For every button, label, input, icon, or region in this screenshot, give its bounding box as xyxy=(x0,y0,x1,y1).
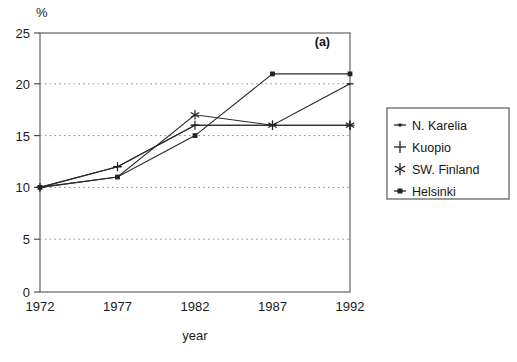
x-tick-label-1992: 1992 xyxy=(336,299,365,314)
marker-helsinki-1982 xyxy=(193,133,198,138)
y-tick-label-0: 0 xyxy=(23,285,30,300)
y-tick-label-25: 25 xyxy=(16,26,30,41)
y-tick-label-15: 15 xyxy=(16,129,30,144)
y-tick-label-5: 5 xyxy=(23,232,30,247)
legend: N. Karelia Kuopio SW. Finland xyxy=(387,108,509,199)
chart-figure: % 25 20 15 10 5 0 xyxy=(0,0,517,362)
dash-dot-marker-dot xyxy=(399,124,402,127)
x-tick-label-1977: 1977 xyxy=(103,299,132,314)
legend-label-sw-finland: SW. Finland xyxy=(412,163,479,177)
y-tick-label-10: 10 xyxy=(16,180,30,195)
x-axis-title: year xyxy=(182,328,208,343)
x-tick-label-1982: 1982 xyxy=(181,299,210,314)
marker-helsinki-1992 xyxy=(348,72,353,77)
y-tick-label-20: 20 xyxy=(16,77,30,92)
chart-svg: % 25 20 15 10 5 0 xyxy=(0,0,517,362)
filled-square-marker-box xyxy=(398,189,403,194)
legend-label-kuopio: Kuopio xyxy=(412,141,451,155)
marker-helsinki-1987 xyxy=(270,72,275,77)
legend-label-n-karelia: N. Karelia xyxy=(412,119,467,133)
x-tick-label-1972: 1972 xyxy=(26,299,55,314)
x-tick-label-1987: 1987 xyxy=(258,299,287,314)
y-unit-label: % xyxy=(36,5,48,20)
legend-label-helsinki: Helsinki xyxy=(412,185,456,199)
panel-label: (a) xyxy=(315,35,330,49)
